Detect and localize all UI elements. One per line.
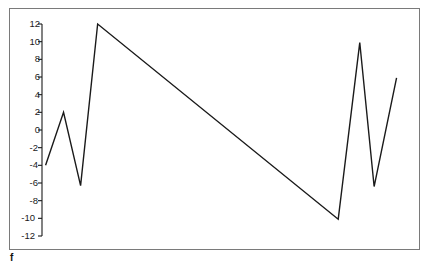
ytick-label-neg8: -8 [16,196,38,206]
ytick-label-neg6: -6 [16,178,38,188]
ytick-label-2: 2 [18,107,40,117]
ytick-label-8: 8 [18,54,40,64]
ytick-label-neg2: -2 [16,143,38,153]
ytick-label-neg4: -4 [16,160,38,170]
ytick-label-neg10: -10 [13,213,35,223]
ytick-label-neg12: -12 [13,231,35,241]
ytick-label-0: 0 [18,125,40,135]
ytick-label-4: 4 [18,90,40,100]
ytick-label-12: 12 [18,19,40,29]
corner-label: f [10,252,13,263]
ytick-label-10: 10 [18,37,40,47]
figure-container: 12 10 8 6 4 2 0 -2 -4 -6 -8 -10 -12 f [0,0,430,271]
ytick-label-6: 6 [18,72,40,82]
plot-frame [9,8,420,250]
